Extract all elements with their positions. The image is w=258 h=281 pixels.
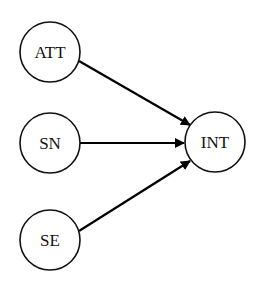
edge-att-to-int bbox=[79, 61, 190, 125]
node-se-label: SE bbox=[40, 231, 60, 250]
node-int: INT bbox=[185, 112, 245, 172]
node-int-label: INT bbox=[201, 133, 230, 152]
node-att: ATT bbox=[20, 22, 80, 82]
node-sn-label: SN bbox=[39, 134, 61, 153]
node-sn: SN bbox=[20, 113, 80, 173]
path-diagram: ATT SN SE INT bbox=[0, 0, 258, 281]
edge-se-to-int bbox=[79, 161, 190, 231]
node-att-label: ATT bbox=[34, 43, 66, 62]
node-se: SE bbox=[20, 210, 80, 270]
